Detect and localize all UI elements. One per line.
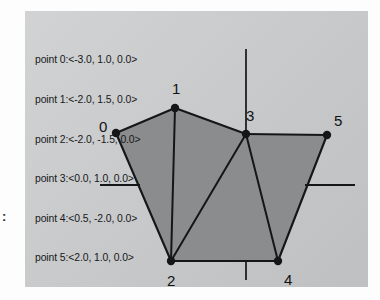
vertex-dot-3 bbox=[242, 130, 250, 138]
vertex-label-4: 4 bbox=[284, 272, 292, 287]
vertex-dot-1 bbox=[171, 104, 179, 112]
coordinate-line-4: point 4:<0.5, -2.0, 0.0> bbox=[35, 212, 141, 225]
polygon-fill bbox=[116, 108, 327, 261]
coordinate-line-2: point 2:<-2.0, -1.5, 0.0> bbox=[35, 133, 141, 146]
vertex-label-0: 0 bbox=[99, 119, 107, 134]
scanned-page: : point 0:<-3.0, 1.0, 0.0> point 1:<-2.0… bbox=[0, 0, 380, 300]
coordinate-listing: point 0:<-3.0, 1.0, 0.0> point 1:<-2.0, … bbox=[35, 27, 141, 287]
polygon-fill-group bbox=[116, 108, 327, 261]
coordinate-line-1: point 1:<-2.0, 1.5, 0.0> bbox=[35, 93, 141, 106]
coordinate-line-3: point 3:<0.0, 1.0, 0.0> bbox=[35, 172, 141, 185]
vertex-dot-2 bbox=[167, 257, 175, 265]
coordinate-line-5: point 5:<2.0, 1.0, 0.0> bbox=[35, 251, 141, 264]
polygon-edge-3-5 bbox=[246, 134, 327, 135]
figure-panel: point 0:<-3.0, 1.0, 0.0> point 1:<-2.0, … bbox=[25, 11, 368, 287]
vertex-dot-5 bbox=[323, 131, 331, 139]
vertex-label-3: 3 bbox=[246, 108, 254, 123]
vertex-label-1: 1 bbox=[172, 81, 180, 96]
vertex-label-5: 5 bbox=[334, 113, 342, 128]
vertex-label-2: 2 bbox=[167, 273, 175, 287]
margin-colon-mark: : bbox=[2, 211, 9, 222]
coordinate-line-0: point 0:<-3.0, 1.0, 0.0> bbox=[35, 53, 141, 66]
vertex-dot-4 bbox=[274, 257, 282, 265]
